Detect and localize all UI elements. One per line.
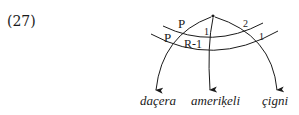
word-2: ameriḳeli [191, 93, 240, 108]
arrow-to-word-2 [209, 18, 213, 90]
label-lower-right: 1 [259, 31, 264, 42]
word-1: daçera [140, 93, 177, 108]
label-upper-middle: 1 [204, 26, 209, 37]
label-upper-right: 2 [243, 18, 248, 29]
label-lower-middle: R-1 [184, 37, 202, 51]
dependency-diagram: P 2 1 P R-1 1 daçera ameriḳeli çigni [0, 0, 299, 115]
label-upper-left: P [178, 16, 185, 31]
label-lower-left: P [164, 30, 171, 45]
word-3: çigni [262, 93, 288, 108]
root-node [211, 14, 214, 17]
